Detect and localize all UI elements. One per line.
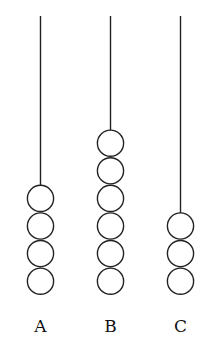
rod-label-c: C [174,316,187,336]
bead [97,158,123,184]
rod-b [97,16,123,294]
bead [27,268,53,294]
labels-layer: A B C [33,316,187,336]
bead [167,241,193,267]
bead [27,241,53,267]
rod-label-a: A [33,316,47,336]
bead [27,185,53,211]
rods-layer [27,16,193,294]
rod-label-b: B [104,316,117,336]
bead [97,268,123,294]
bead [97,241,123,267]
bead [97,213,123,239]
rod-a [27,16,53,294]
rod-c [167,16,193,294]
abacus-diagram: A B C [0,0,212,341]
bead [97,185,123,211]
bead [27,213,53,239]
bead [167,213,193,239]
bead [97,130,123,156]
bead [167,268,193,294]
